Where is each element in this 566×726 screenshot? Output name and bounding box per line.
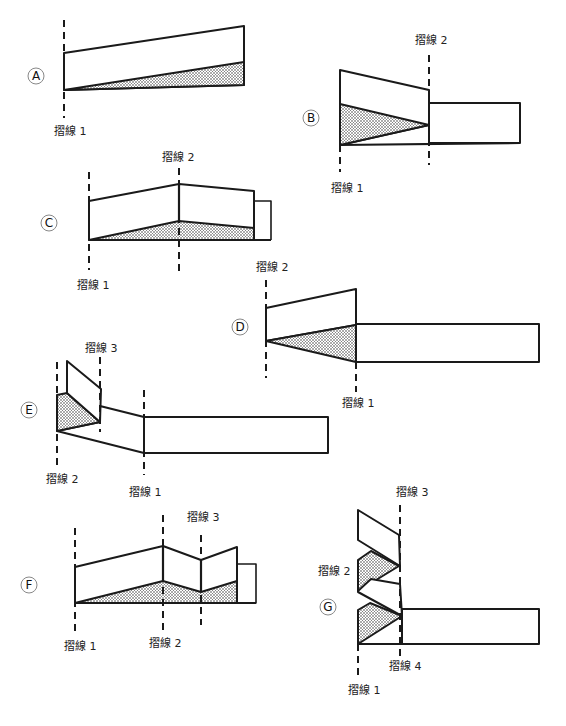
svg-text:E: E bbox=[25, 403, 33, 417]
step-g: G 摺線 3 摺線 2 摺線 4 摺線 1 bbox=[318, 485, 539, 697]
step-marker-a: A bbox=[28, 68, 44, 84]
fold-label: 摺線 1 bbox=[77, 278, 110, 292]
fold-label: 摺線 2 bbox=[149, 636, 182, 650]
step-e: E 摺線 3 摺線 2 摺線 1 bbox=[21, 341, 328, 499]
fold-label: 摺線 3 bbox=[396, 485, 429, 499]
svg-text:F: F bbox=[26, 578, 33, 592]
fold-label: 摺線 1 bbox=[64, 639, 97, 653]
step-marker-f: F bbox=[21, 577, 37, 593]
paper-strip bbox=[402, 609, 539, 644]
fold-label: 摺線 2 bbox=[256, 260, 289, 274]
step-b: B 摺線 2 摺線 1 bbox=[303, 33, 520, 195]
fold-label: 摺線 1 bbox=[331, 181, 364, 195]
step-marker-e: E bbox=[21, 402, 37, 418]
fold-label: 摺線 4 bbox=[389, 659, 422, 673]
step-marker-d: D bbox=[232, 319, 248, 335]
fold-label: 摺線 2 bbox=[46, 472, 79, 486]
fold-label: 摺線 3 bbox=[187, 510, 220, 524]
fold-label: 摺線 1 bbox=[129, 485, 162, 499]
paper-strip bbox=[144, 417, 328, 453]
fold-label: 摺線 2 bbox=[162, 150, 195, 164]
step-c: C 摺線 2 摺線 1 bbox=[41, 150, 271, 292]
step-marker-b: B bbox=[303, 110, 319, 126]
step-a: A 摺線 1 bbox=[28, 20, 244, 138]
paper-strip bbox=[429, 103, 520, 143]
fold-label: 摺線 2 bbox=[318, 564, 351, 578]
fold-label: 摺線 1 bbox=[348, 683, 381, 697]
step-d: D 摺線 2 摺線 1 bbox=[232, 260, 539, 410]
svg-text:C: C bbox=[45, 216, 53, 230]
fold-label: 摺線 3 bbox=[85, 341, 118, 355]
fold-label: 摺線 1 bbox=[342, 396, 375, 410]
svg-text:D: D bbox=[235, 320, 244, 334]
svg-text:B: B bbox=[307, 111, 315, 125]
fold-label: 摺線 2 bbox=[415, 33, 448, 47]
svg-text:G: G bbox=[323, 600, 332, 614]
svg-text:A: A bbox=[32, 69, 41, 83]
fold-label: 摺線 1 bbox=[54, 124, 87, 138]
step-marker-c: C bbox=[41, 215, 57, 231]
folding-diagram: A 摺線 1 B 摺線 2 摺線 1 C 摺線 2 摺線 1 bbox=[0, 0, 566, 726]
paper-strip bbox=[356, 324, 539, 362]
back-flap bbox=[237, 564, 256, 603]
step-f: F 摺線 3 摺線 1 摺線 2 bbox=[21, 510, 256, 653]
step-marker-g: G bbox=[320, 599, 336, 615]
back-flap bbox=[254, 201, 271, 240]
